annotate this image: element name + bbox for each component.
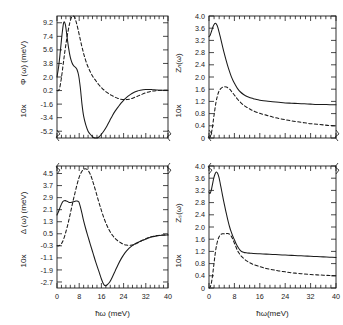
y-tick-label: 3.6 <box>195 174 205 183</box>
x-tick-label: 40 <box>164 292 172 301</box>
y-tick-label: 2.0 <box>195 223 205 232</box>
x-tick-label: 0 <box>55 292 59 301</box>
y-tick-label: -1.1 <box>41 253 53 262</box>
y-tick-label: -5.2 <box>41 127 53 136</box>
y-tick-label: 0.4 <box>195 121 205 130</box>
curve-delta-dashed <box>57 169 168 246</box>
curve-delta-solid <box>57 201 168 286</box>
x-tick-label: 16 <box>97 292 105 301</box>
y-tick-label: 2.0 <box>43 73 53 82</box>
x-tick-label: 40 <box>332 292 340 301</box>
y-tick-label: 1.2 <box>195 97 205 106</box>
y-tick-label: 2.0 <box>195 73 205 82</box>
y-tick-label: 9.2 <box>43 18 53 27</box>
y-axis-prefix-zn: 10x <box>174 105 183 118</box>
figure-root: 9.27.45.63.82.00.2-1.6-3.4-5.2Φ (ω) (meV… <box>0 0 343 325</box>
four-panel-line-chart: 9.27.45.63.82.00.2-1.6-3.4-5.2Φ (ω) (meV… <box>0 0 343 325</box>
y-axis-label-phi: Φ (ω) (meV) <box>19 41 28 86</box>
x-tick-label: 0 <box>207 292 211 301</box>
y-tick-label: -0.3 <box>41 241 53 250</box>
y-tick-label: 7.4 <box>43 32 53 41</box>
panel-phi: 9.27.45.63.82.00.2-1.6-3.4-5.2Φ (ω) (meV… <box>19 16 168 138</box>
x-tick-label: 8 <box>77 292 81 301</box>
y-tick-label: 3.7 <box>43 181 53 190</box>
curve-phi-dashed <box>57 16 168 100</box>
plot-frame-zn <box>209 16 336 138</box>
y-tick-label: 3.2 <box>195 36 205 45</box>
panel-delta: 4.53.72.92.11.30.5-0.3-1.1-1.9-2.7081624… <box>19 166 172 318</box>
y-tick-label: 2.8 <box>195 48 205 57</box>
panel-zn: 4.03.63.22.82.42.01.61.20.80.40Zₙ(ω)10x <box>174 12 336 143</box>
y-tick-label: 0.2 <box>43 86 53 95</box>
y-tick-label: 1.6 <box>195 85 205 94</box>
y-tick-label: 3.6 <box>195 24 205 33</box>
y-tick-label: -1.6 <box>41 100 53 109</box>
y-tick-label: 0.4 <box>195 271 205 280</box>
y-tick-label: 4.5 <box>43 169 53 178</box>
y-tick-label: 3.2 <box>195 186 205 195</box>
y-tick-label: 0.5 <box>43 229 53 238</box>
y-tick-label: 5.6 <box>43 45 53 54</box>
curve-zs-dashed <box>209 233 336 288</box>
y-axis-prefix-delta: 10x <box>19 255 28 268</box>
y-tick-label: 2.1 <box>43 205 53 214</box>
y-tick-label: 2.8 <box>195 198 205 207</box>
x-axis-label-delta: ħω (meV) <box>95 309 130 318</box>
y-tick-label: -3.4 <box>41 113 53 122</box>
y-tick-label: 2.9 <box>43 193 53 202</box>
plot-frame-phi <box>57 16 168 138</box>
x-tick-label: 32 <box>142 292 150 301</box>
x-tick-label: 16 <box>256 292 264 301</box>
y-axis-prefix-zs: 10x <box>174 255 183 268</box>
x-tick-label: 8 <box>232 292 236 301</box>
curve-zn-solid <box>209 23 336 104</box>
y-tick-label: 4.0 <box>195 162 205 171</box>
x-axis-label-zs: ħω(meV) <box>256 309 289 318</box>
curve-zn-dashed <box>209 87 336 138</box>
y-tick-label: -1.9 <box>41 266 53 275</box>
y-tick-label: 2.4 <box>195 210 205 219</box>
y-tick-label: 0.8 <box>195 259 205 268</box>
y-tick-label: -2.7 <box>41 278 53 287</box>
y-tick-label: 4.0 <box>195 12 205 21</box>
y-axis-prefix-phi: 10x <box>19 105 28 118</box>
y-axis-label-zn: Zₙ(ω) <box>174 53 183 73</box>
y-axis-label-zs: Zₛ(ω) <box>174 203 183 223</box>
x-tick-label: 24 <box>120 292 128 301</box>
y-tick-label: 2.4 <box>195 60 205 69</box>
y-tick-label: 0.8 <box>195 109 205 118</box>
y-axis-label-delta: Δ (ω) (meV) <box>19 191 28 234</box>
y-tick-label: 0 <box>201 134 205 143</box>
y-tick-label: 3.8 <box>43 59 53 68</box>
y-tick-label: 0 <box>201 284 205 293</box>
plot-frame-delta <box>57 166 168 288</box>
x-tick-label: 24 <box>281 292 289 301</box>
x-tick-label: 32 <box>307 292 315 301</box>
panel-zs: 4.03.63.22.82.42.01.61.20.80.40081624324… <box>174 162 340 318</box>
y-tick-label: 1.6 <box>195 235 205 244</box>
y-tick-label: 1.3 <box>43 217 53 226</box>
curve-zs-solid <box>209 172 336 257</box>
y-tick-label: 1.2 <box>195 247 205 256</box>
curve-phi-solid <box>57 22 168 138</box>
